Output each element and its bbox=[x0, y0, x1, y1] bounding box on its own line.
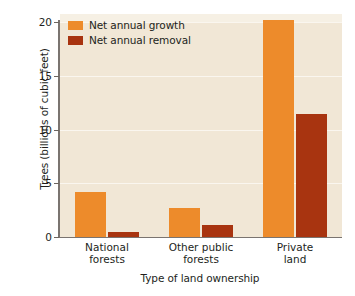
legend-label-net-annual-removal: Net annual removal bbox=[89, 34, 191, 46]
bar-chart-figure: 05101520 Trees (billions of cubic feet) … bbox=[0, 0, 355, 296]
y-tick-mark bbox=[54, 130, 59, 131]
bar bbox=[169, 208, 200, 237]
legend-item-net-annual-removal: Net annual removal bbox=[68, 33, 191, 47]
x-axis-line bbox=[58, 237, 342, 238]
y-tick-mark bbox=[54, 22, 59, 23]
legend-label-net-annual-growth: Net annual growth bbox=[89, 19, 185, 31]
x-tick-label: Privateland bbox=[248, 241, 342, 265]
y-tick-mark bbox=[54, 76, 59, 77]
bar bbox=[202, 225, 233, 237]
y-tick-label: 0 bbox=[26, 232, 52, 243]
bar bbox=[296, 114, 327, 237]
y-tick-mark bbox=[54, 237, 59, 238]
y-tick-mark bbox=[54, 183, 59, 184]
legend-swatch-net-annual-growth bbox=[68, 21, 83, 30]
x-tick-label: Other publicforests bbox=[154, 241, 248, 265]
y-axis-title: Trees (billions of cubic feet) bbox=[38, 9, 50, 229]
legend-item-net-annual-growth: Net annual growth bbox=[68, 18, 191, 32]
bar bbox=[263, 20, 294, 237]
bar bbox=[75, 192, 106, 237]
chart-legend: Net annual growth Net annual removal bbox=[68, 18, 191, 48]
x-tick-label: Nationalforests bbox=[60, 241, 154, 265]
legend-swatch-net-annual-removal bbox=[68, 36, 83, 45]
x-axis-title: Type of land ownership bbox=[58, 272, 342, 284]
gridline bbox=[60, 76, 342, 77]
